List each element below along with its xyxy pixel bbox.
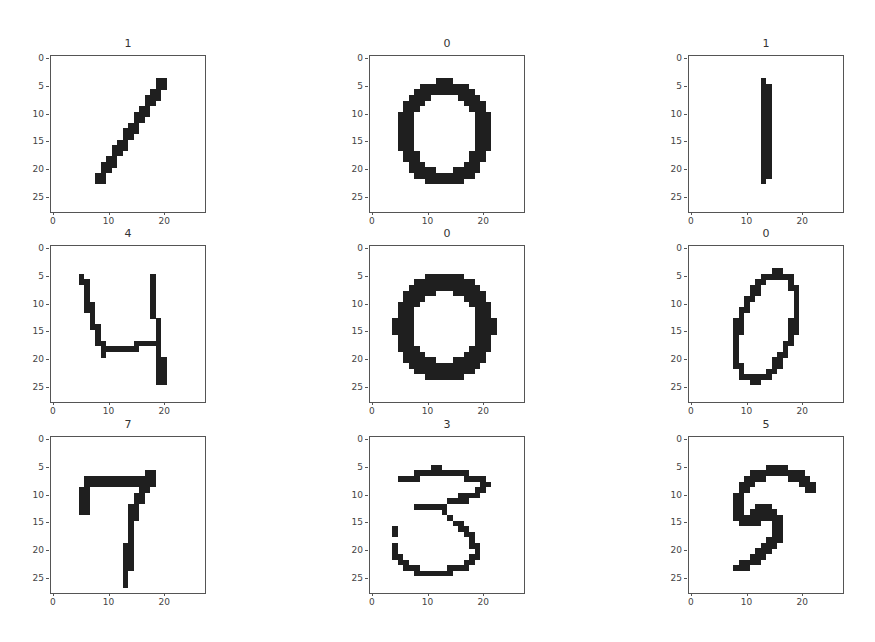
x-tick-label: 20 [154, 406, 174, 416]
x-tick-label: 20 [154, 597, 174, 607]
y-tick-label: 10 [339, 490, 363, 500]
y-tick-label: 10 [20, 299, 44, 309]
y-tick-label: 5 [20, 462, 44, 472]
y-tick-label: 5 [658, 271, 682, 281]
x-tick-label: 0 [362, 216, 382, 226]
x-tick-label: 0 [43, 406, 63, 416]
digit-image-axes [369, 55, 525, 213]
x-tick-label: 0 [681, 597, 701, 607]
y-tick-label: 0 [658, 434, 682, 444]
digit-image-axes [688, 436, 844, 594]
x-tick-label: 10 [418, 597, 438, 607]
y-tick-label: 20 [20, 545, 44, 555]
x-tick-label: 20 [792, 406, 812, 416]
x-tick-label: 0 [43, 216, 63, 226]
y-tick-label: 0 [658, 53, 682, 63]
subplot-title: 0 [369, 37, 525, 50]
y-tick-label: 15 [658, 136, 682, 146]
y-tick-label: 20 [658, 164, 682, 174]
y-tick-label: 0 [339, 243, 363, 253]
subplot-title: 3 [369, 418, 525, 431]
x-tick-label: 10 [418, 216, 438, 226]
x-tick-label: 0 [362, 597, 382, 607]
x-tick-label: 10 [737, 597, 757, 607]
y-tick-label: 5 [658, 81, 682, 91]
y-tick-label: 0 [20, 243, 44, 253]
x-tick-label: 10 [737, 406, 757, 416]
y-tick-label: 25 [339, 382, 363, 392]
x-tick-label: 10 [99, 597, 119, 607]
subplot-title: 0 [369, 227, 525, 240]
digit-subplot: 3051015202501020 [369, 436, 525, 594]
y-tick-label: 20 [658, 545, 682, 555]
y-tick-label: 0 [339, 434, 363, 444]
digit-image-axes [369, 245, 525, 403]
y-tick-label: 15 [658, 517, 682, 527]
y-tick-label: 10 [658, 299, 682, 309]
y-tick-label: 10 [339, 299, 363, 309]
digit-image-axes [50, 55, 206, 213]
x-tick-label: 10 [737, 216, 757, 226]
y-tick-label: 15 [658, 326, 682, 336]
y-tick-label: 10 [658, 490, 682, 500]
digit-subplot: 0051015202501020 [369, 245, 525, 403]
digit-image-axes [688, 245, 844, 403]
y-tick-label: 25 [339, 192, 363, 202]
digit-image-axes [50, 245, 206, 403]
y-tick-label: 20 [339, 545, 363, 555]
subplot-title: 1 [688, 37, 844, 50]
y-tick-label: 0 [658, 243, 682, 253]
y-tick-label: 25 [20, 192, 44, 202]
y-tick-label: 25 [658, 382, 682, 392]
y-tick-label: 25 [20, 573, 44, 583]
y-tick-label: 20 [658, 354, 682, 364]
y-tick-label: 0 [339, 53, 363, 63]
x-tick-label: 20 [473, 406, 493, 416]
y-tick-label: 10 [20, 490, 44, 500]
x-tick-label: 0 [362, 406, 382, 416]
y-tick-label: 20 [20, 164, 44, 174]
subplot-title: 4 [50, 227, 206, 240]
x-tick-label: 0 [681, 216, 701, 226]
y-tick-label: 15 [339, 517, 363, 527]
x-tick-label: 20 [473, 216, 493, 226]
subplot-title: 7 [50, 418, 206, 431]
x-tick-label: 20 [792, 216, 812, 226]
digit-image-axes [688, 55, 844, 213]
y-tick-label: 15 [339, 136, 363, 146]
y-tick-label: 25 [658, 192, 682, 202]
y-tick-label: 5 [20, 81, 44, 91]
y-tick-label: 25 [339, 573, 363, 583]
digit-subplot: 0051015202501020 [688, 245, 844, 403]
subplot-title: 5 [688, 418, 844, 431]
y-tick-label: 10 [339, 109, 363, 119]
x-tick-label: 0 [681, 406, 701, 416]
y-tick-label: 5 [20, 271, 44, 281]
digit-image-axes [50, 436, 206, 594]
y-tick-label: 20 [339, 164, 363, 174]
y-tick-label: 5 [658, 462, 682, 472]
y-tick-label: 15 [339, 326, 363, 336]
digit-subplot: 4051015202501020 [50, 245, 206, 403]
y-tick-label: 25 [658, 573, 682, 583]
digit-subplot: 5051015202501020 [688, 436, 844, 594]
y-tick-label: 25 [20, 382, 44, 392]
y-tick-label: 0 [20, 434, 44, 444]
subplot-title: 0 [688, 227, 844, 240]
y-tick-label: 15 [20, 136, 44, 146]
y-tick-label: 5 [339, 271, 363, 281]
y-tick-label: 10 [20, 109, 44, 119]
y-tick-label: 5 [339, 81, 363, 91]
digit-image-axes [369, 436, 525, 594]
subplot-title: 1 [50, 37, 206, 50]
digit-subplot: 1051015202501020 [688, 55, 844, 213]
y-tick-label: 15 [20, 517, 44, 527]
x-tick-label: 10 [418, 406, 438, 416]
x-tick-label: 0 [43, 597, 63, 607]
y-tick-label: 0 [20, 53, 44, 63]
digit-subplot: 1051015202501020 [50, 55, 206, 213]
y-tick-label: 15 [20, 326, 44, 336]
y-tick-label: 20 [20, 354, 44, 364]
y-tick-label: 5 [339, 462, 363, 472]
x-tick-label: 10 [99, 216, 119, 226]
